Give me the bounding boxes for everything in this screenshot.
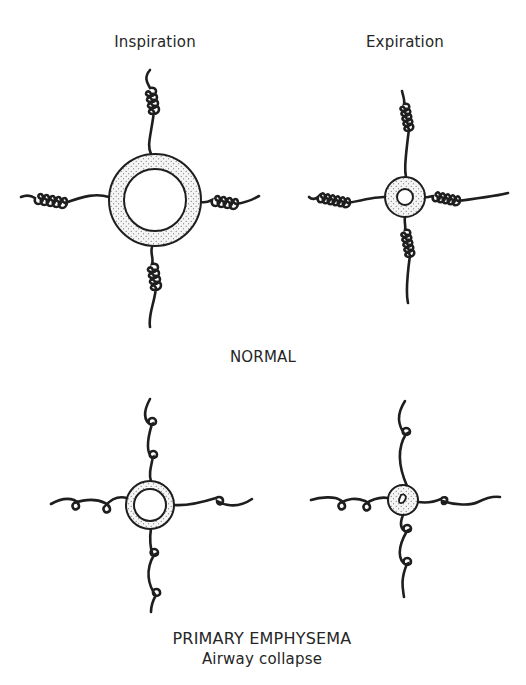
normal-inspiration-panel: [21, 70, 259, 327]
airway-tethering-diagram: [0, 0, 526, 685]
normal-expiration-panel: [309, 91, 508, 303]
tether-spring-left: [309, 193, 385, 207]
tether-spring-bottom: [401, 217, 414, 303]
emphysema-expiration-panel: [311, 401, 500, 597]
column-label-expiration: Expiration: [366, 33, 444, 51]
collapsed-lumen: [399, 494, 406, 503]
tether-spring-left: [51, 497, 127, 512]
emphysema-inspiration-panel: [51, 399, 252, 612]
tether-spring-top: [145, 399, 157, 481]
tether-spring-left: [21, 194, 109, 208]
tether-spring-top: [399, 401, 410, 486]
tether-spring-left: [311, 497, 388, 510]
tether-spring-right: [418, 497, 500, 505]
tether-spring-right: [425, 192, 508, 205]
section-label-normal: NORMAL: [230, 348, 296, 366]
tether-spring-bottom: [400, 515, 411, 597]
tether-spring-bottom: [148, 247, 161, 327]
column-label-inspiration: Inspiration: [114, 33, 196, 51]
section-label-primary-emphysema: PRIMARY EMPHYSEMA: [173, 629, 352, 648]
airway-lumen: [397, 189, 413, 205]
tether-spring-right: [201, 196, 259, 209]
airway-lumen: [124, 169, 186, 231]
airway-lumen: [134, 489, 166, 521]
tether-spring-top: [146, 70, 159, 154]
tether-spring-right: [174, 497, 252, 505]
tether-spring-top: [400, 91, 413, 177]
tether-spring-bottom: [148, 528, 160, 612]
section-sublabel-airway-collapse: Airway collapse: [202, 650, 322, 668]
